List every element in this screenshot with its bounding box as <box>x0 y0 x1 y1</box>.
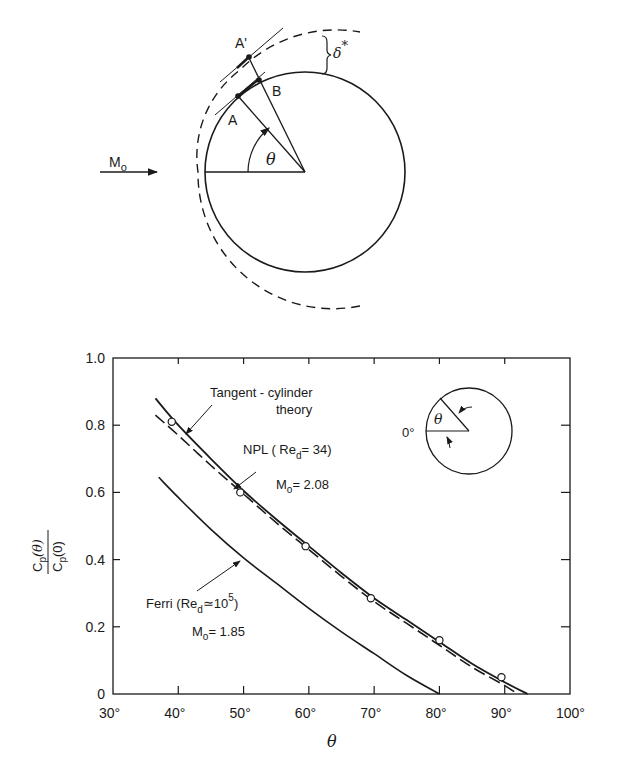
npl-data-point <box>168 418 175 425</box>
x-tick-label: 40° <box>164 705 185 721</box>
delta-brace-icon <box>322 36 331 74</box>
point-B-dot <box>256 77 262 83</box>
figure-canvas: Mo A A' B θ δ* 30°40°50°60°70°80°90°100°… <box>0 0 621 764</box>
tangent-label-line2: theory <box>276 402 313 417</box>
npl-data-point <box>302 543 309 550</box>
y-tick-label: 0.4 <box>86 552 106 568</box>
y-tick-label: 0 <box>97 686 105 702</box>
npl-data-point <box>498 674 505 681</box>
npl-data-point <box>367 595 374 602</box>
x-tick-label: 80° <box>425 705 446 721</box>
x-axis-label: θ <box>327 732 337 751</box>
tangent-pointer-icon <box>186 405 212 434</box>
point-A-prime-dot <box>246 54 252 60</box>
axis-ticks <box>113 358 570 694</box>
ferri-label: Ferri (Red≃105) <box>146 592 238 615</box>
point-B-label: B <box>272 83 281 99</box>
pressure-chart: 30°40°50°60°70°80°90°100°00.20.40.60.81.… <box>30 350 585 751</box>
npl-data-point <box>237 489 244 496</box>
x-tick-label: 30° <box>99 705 120 721</box>
inset-zero-label: 0° <box>402 425 414 440</box>
ferri-curve <box>159 477 440 694</box>
x-tick-label: 70° <box>360 705 381 721</box>
ferri-mach-label: Mo= 1.85 <box>192 624 245 642</box>
x-tick-label: 100° <box>556 705 585 721</box>
tangent-at-A-heavy <box>238 79 259 96</box>
inset-arc-arrow-top-icon <box>459 407 472 413</box>
npl-data-markers <box>168 418 505 681</box>
npl-data-point <box>436 637 443 644</box>
y-tick-label: 0.2 <box>86 619 106 635</box>
point-A-prime-label: A' <box>235 35 247 51</box>
ferri-pointer-icon <box>197 561 240 591</box>
inset-angle-diagram: θ 0° <box>402 388 512 474</box>
y-tick-label: 0.6 <box>86 484 106 500</box>
inset-arc-arrow-bottom-icon <box>447 437 450 448</box>
y-label-numerator: Cp(θ) <box>30 539 48 572</box>
y-axis-label: Cp(θ) Cp(0) <box>30 530 68 574</box>
cylinder-diagram: Mo A A' B θ δ* <box>100 28 405 309</box>
x-tick-label: 50° <box>230 705 251 721</box>
delta-star-label: δ* <box>333 38 348 61</box>
tangent-cylinder-curve <box>155 398 527 694</box>
npl-mach-label: Mo= 2.08 <box>276 477 329 495</box>
inset-theta-label: θ <box>434 411 443 427</box>
npl-label: NPL ( Red= 34) <box>243 442 332 461</box>
point-A-dot <box>235 93 241 99</box>
x-tick-label: 60° <box>295 705 316 721</box>
y-label-denominator: Cp(0) <box>50 541 68 572</box>
freestream-label: Mo <box>109 154 127 173</box>
tangent-label-line1: Tangent - cylinder <box>210 385 313 400</box>
inset-angled-radius <box>440 398 469 431</box>
y-tick-label: 1.0 <box>86 350 106 366</box>
y-tick-label: 0.8 <box>86 417 106 433</box>
tangent-at-A-prime <box>220 28 283 82</box>
point-A-label: A <box>228 112 238 128</box>
npl-pointer-icon <box>234 472 256 489</box>
plot-frame <box>113 358 570 694</box>
theta-label: θ <box>266 150 276 169</box>
radius-to-A-prime <box>248 56 305 172</box>
x-tick-label: 90° <box>491 705 512 721</box>
